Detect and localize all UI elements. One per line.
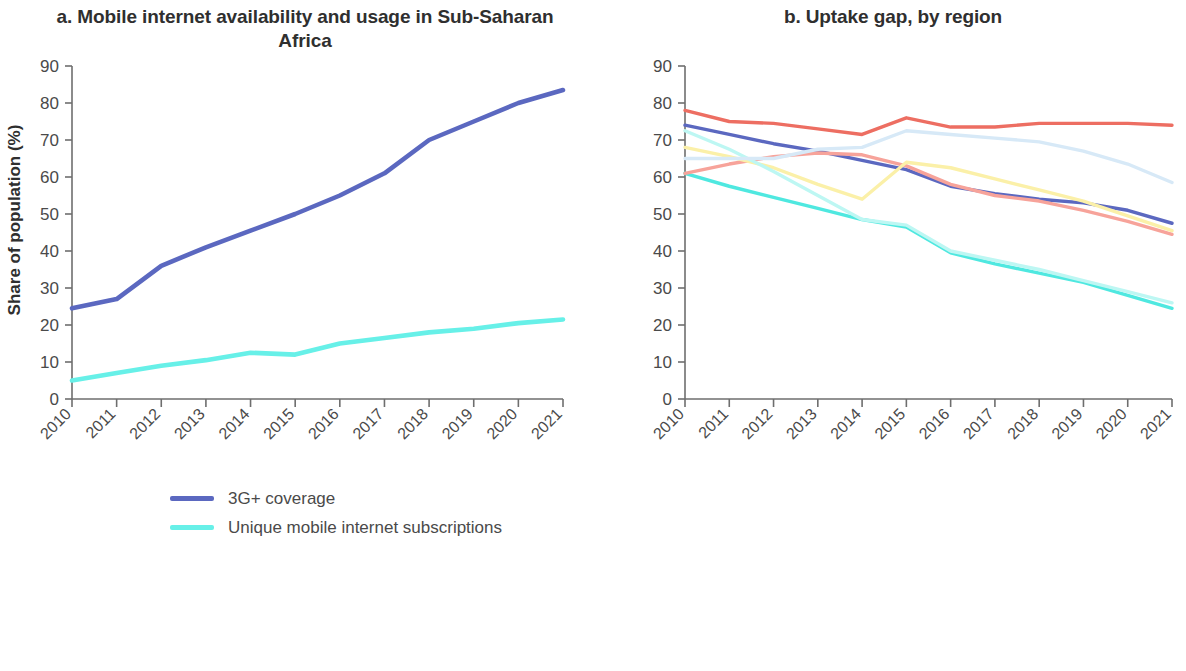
panel-b-plot: 0102030405060708090201020112012201320142…	[600, 0, 1186, 470]
x-tick-label: 2010	[650, 405, 687, 442]
figure-panels: a. Mobile internet availability and usag…	[0, 0, 1186, 671]
y-tick-label: 90	[653, 57, 672, 76]
legend-item-label: 3G+ coverage	[228, 489, 335, 509]
x-tick-label: 2014	[215, 405, 252, 442]
series-line	[685, 173, 1172, 308]
y-tick-label: 70	[40, 131, 59, 150]
panel-a-plot: 0102030405060708090201020112012201320142…	[0, 0, 600, 470]
x-tick-label: 2020	[483, 405, 520, 442]
x-tick-label: 2016	[916, 405, 953, 442]
x-tick-label: 2017	[960, 405, 997, 442]
y-tick-label: 40	[40, 242, 59, 261]
y-tick-label: 0	[663, 390, 672, 409]
x-tick-label: 2011	[695, 405, 731, 441]
y-tick-label: 60	[653, 168, 672, 187]
x-tick-label: 2021	[528, 405, 565, 442]
legend-color-swatch	[170, 525, 214, 530]
x-tick-label: 2019	[439, 405, 476, 442]
x-tick-label: 2021	[1137, 405, 1174, 442]
y-tick-label: 70	[653, 131, 672, 150]
y-tick-label: 50	[40, 205, 59, 224]
y-tick-label: 50	[653, 205, 672, 224]
x-tick-label: 2012	[126, 405, 163, 442]
x-tick-label: 2017	[349, 405, 386, 442]
x-tick-label: 2014	[827, 405, 864, 442]
x-tick-label: 2013	[783, 405, 820, 442]
legend-item-label: Unique mobile internet subscriptions	[228, 518, 502, 538]
y-tick-label: 40	[653, 242, 672, 261]
y-tick-label: 90	[40, 57, 59, 76]
y-tick-label: 20	[653, 316, 672, 335]
x-tick-label: 2012	[738, 405, 775, 442]
y-tick-label: 80	[40, 94, 59, 113]
series-line	[685, 110, 1172, 134]
panel-a-legend: 3G+ coverageUnique mobile internet subsc…	[170, 484, 502, 542]
x-tick-label: 2011	[82, 405, 118, 441]
y-tick-label: 10	[653, 353, 672, 372]
y-tick-label: 80	[653, 94, 672, 113]
y-tick-label: 30	[40, 279, 59, 298]
y-tick-label: 10	[40, 353, 59, 372]
y-tick-label: 0	[50, 390, 59, 409]
y-tick-label: 20	[40, 316, 59, 335]
x-tick-label: 2019	[1048, 405, 1085, 442]
series-line	[72, 90, 563, 308]
x-tick-label: 2010	[37, 405, 74, 442]
legend-item: Unique mobile internet subscriptions	[170, 513, 502, 542]
x-tick-label: 2015	[260, 405, 297, 442]
y-tick-label: 60	[40, 168, 59, 187]
x-tick-label: 2018	[394, 405, 431, 442]
y-tick-label: 30	[653, 279, 672, 298]
x-tick-label: 2015	[871, 405, 908, 442]
series-line	[72, 319, 563, 380]
legend-item: 3G+ coverage	[170, 484, 502, 513]
panel-a: a. Mobile internet availability and usag…	[0, 0, 600, 671]
x-tick-label: 2018	[1004, 405, 1041, 442]
panel-b: b. Uptake gap, by region Share of intern…	[600, 0, 1186, 671]
x-tick-label: 2013	[171, 405, 208, 442]
x-tick-label: 2020	[1093, 405, 1130, 442]
x-tick-label: 2016	[305, 405, 342, 442]
legend-color-swatch	[170, 496, 214, 501]
